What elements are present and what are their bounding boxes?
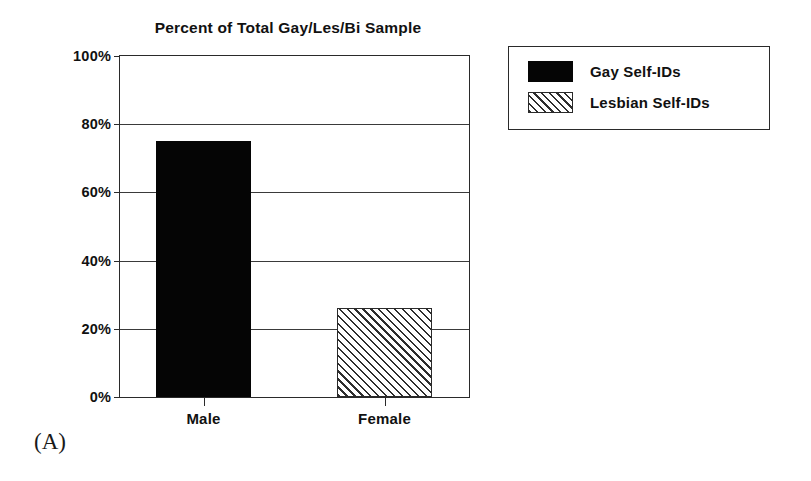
y-tick-label-80: 80% [81, 116, 111, 132]
y-tick-label-40: 40% [81, 253, 111, 269]
y-tick-label-20: 20% [81, 321, 111, 337]
legend-label-lesbian-self-ids: Lesbian Self-IDs [590, 94, 710, 111]
x-tick-label-male: Male [186, 410, 220, 427]
x-tick-mark-male [204, 397, 205, 406]
chart-title: Percent of Total Gay/Les/Bi Sample [113, 19, 463, 37]
y-tick-mark-60 [114, 192, 120, 193]
legend-label-gay-self-ids: Gay Self-IDs [590, 63, 681, 80]
y-tick-mark-0 [114, 397, 120, 398]
legend-item-gay-self-ids: Gay Self-IDs [528, 56, 769, 87]
panel-caption: (A) [34, 429, 66, 455]
figure-panel-a: Percent of Total Gay/Les/Bi Sample 0% 20… [0, 0, 811, 481]
chart-legend: Gay Self-IDs Lesbian Self-IDs [508, 46, 770, 130]
bar-male-gay-self-ids [156, 141, 251, 397]
y-tick-mark-20 [114, 329, 120, 330]
y-tick-label-60: 60% [81, 184, 111, 200]
gridline-80 [120, 124, 469, 125]
y-tick-label-0: 0% [90, 389, 111, 405]
legend-item-lesbian-self-ids: Lesbian Self-IDs [528, 87, 769, 118]
legend-swatch-hatch-icon [528, 92, 573, 113]
plot-area: 0% 20% 40% 60% 80% 100% Male [119, 55, 470, 398]
x-tick-label-female: Female [358, 410, 411, 427]
y-tick-label-100: 100% [73, 48, 111, 64]
bar-female-lesbian-self-ids [337, 308, 432, 397]
x-tick-mark-female [385, 397, 386, 406]
y-tick-mark-40 [114, 261, 120, 262]
legend-swatch-solid-icon [528, 61, 573, 82]
y-tick-mark-80 [114, 124, 120, 125]
y-tick-mark-100 [114, 56, 120, 57]
